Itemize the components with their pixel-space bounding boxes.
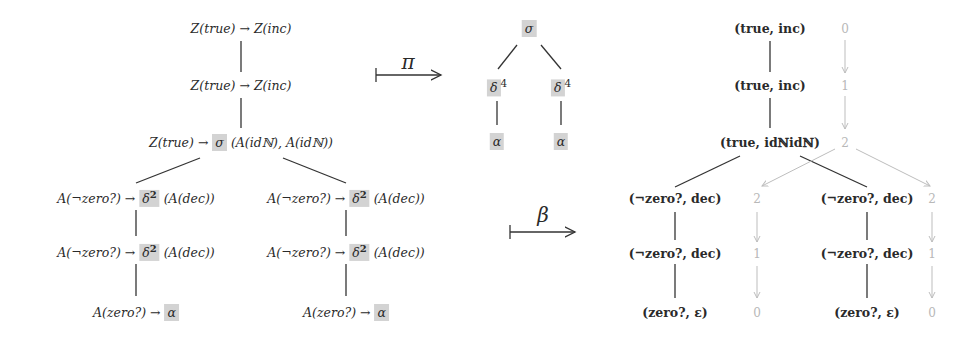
highlight-alpha: α bbox=[164, 304, 178, 321]
highlight-sigma: σ bbox=[212, 134, 227, 151]
arrow-symbol: → bbox=[125, 191, 135, 206]
mid-leaf-0: α bbox=[490, 134, 504, 150]
mid-leaf-1: α bbox=[554, 134, 568, 150]
arrow-symbol: → bbox=[198, 135, 208, 150]
delta-symbol: δ bbox=[490, 81, 498, 96]
right-node-4a: (¬zero?, dec) bbox=[629, 246, 722, 262]
right-node-3b: (¬zero?, dec) bbox=[821, 191, 914, 207]
mid-child-1: δ4 bbox=[551, 75, 571, 96]
arrow-symbol: → bbox=[125, 245, 135, 260]
exponent: 2 bbox=[150, 189, 157, 200]
counter-3a: 2 bbox=[753, 191, 761, 207]
diagram-edges bbox=[0, 0, 968, 342]
right-node-4b: (¬zero?, dec) bbox=[821, 246, 914, 262]
exponent: 2 bbox=[360, 189, 367, 200]
node-args: (A(dec)) bbox=[374, 191, 425, 206]
mid-child-0: δ4 bbox=[487, 75, 507, 96]
highlight-alpha: α bbox=[490, 133, 504, 150]
counter-3b: 2 bbox=[928, 191, 936, 207]
highlight-delta: δ bbox=[487, 80, 501, 97]
highlight-sigma: σ bbox=[522, 20, 537, 37]
left-node-3b: A(¬zero?) → δ2 (A(dec)) bbox=[267, 187, 424, 207]
exponent: 2 bbox=[150, 243, 157, 254]
node-lhs: A(¬zero?) bbox=[57, 245, 120, 260]
counter-4b: 1 bbox=[928, 246, 936, 262]
right-node-5a: (zero?, ε) bbox=[642, 305, 707, 321]
highlight-delta: δ2 bbox=[139, 244, 160, 261]
right-node-3a: (¬zero?, dec) bbox=[629, 191, 722, 207]
pi-map-label: π bbox=[401, 50, 414, 74]
right-node-2: (true, idℕidℕ) bbox=[720, 135, 820, 151]
counter-4a: 1 bbox=[753, 246, 761, 262]
left-node-4a: A(¬zero?) → δ2 (A(dec)) bbox=[57, 241, 214, 261]
highlight-delta: δ2 bbox=[349, 244, 370, 261]
node-lhs: A(¬zero?) bbox=[267, 245, 330, 260]
node-rhs: Z(inc) bbox=[254, 78, 292, 93]
left-node-3a: A(¬zero?) → δ2 (A(dec)) bbox=[57, 187, 214, 207]
left-node-1: Z(true) → Z(inc) bbox=[191, 78, 292, 94]
left-node-5b: A(zero?) → α bbox=[303, 305, 389, 321]
arrow-symbol: → bbox=[150, 305, 160, 320]
highlight-alpha: α bbox=[374, 304, 388, 321]
arrow-symbol: → bbox=[335, 191, 345, 206]
arrow-symbol: → bbox=[239, 21, 249, 36]
arrow-symbol: → bbox=[335, 245, 345, 260]
exponent: 2 bbox=[360, 243, 367, 254]
node-args: (A(dec)) bbox=[374, 245, 425, 260]
node-lhs: A(¬zero?) bbox=[267, 191, 330, 206]
counter-5b: 0 bbox=[928, 305, 936, 321]
highlight-delta: δ2 bbox=[349, 190, 370, 207]
node-args: (A(dec)) bbox=[164, 191, 215, 206]
mid-root: σ bbox=[522, 21, 537, 37]
highlight-delta: δ bbox=[551, 80, 565, 97]
right-node-5b: (zero?, ε) bbox=[834, 305, 899, 321]
counter-1: 1 bbox=[841, 78, 849, 94]
left-node-0: Z(true) → Z(inc) bbox=[191, 21, 292, 37]
node-lhs: A(zero?) bbox=[93, 305, 146, 320]
counter-0: 0 bbox=[841, 21, 849, 37]
right-node-1: (true, inc) bbox=[734, 78, 805, 94]
right-node-0: (true, inc) bbox=[734, 21, 805, 37]
arrow-symbol: → bbox=[360, 305, 370, 320]
node-lhs: A(zero?) bbox=[303, 305, 356, 320]
counter-5a: 0 bbox=[753, 305, 761, 321]
beta-map-label: β bbox=[537, 203, 549, 227]
exponent: 4 bbox=[564, 77, 571, 89]
node-lhs: Z(true) bbox=[149, 135, 194, 150]
node-lhs: Z(true) bbox=[191, 21, 236, 36]
exponent: 4 bbox=[500, 77, 507, 89]
node-rhs: Z(inc) bbox=[254, 21, 292, 36]
node-args: (A(idℕ), A(idℕ)) bbox=[231, 135, 333, 150]
highlight-delta: δ2 bbox=[139, 190, 160, 207]
arrow-symbol: → bbox=[239, 78, 249, 93]
highlight-alpha: α bbox=[554, 133, 568, 150]
delta-symbol: δ bbox=[554, 81, 562, 96]
node-args: (A(dec)) bbox=[164, 245, 215, 260]
left-node-5a: A(zero?) → α bbox=[93, 305, 179, 321]
node-lhs: Z(true) bbox=[191, 78, 236, 93]
node-lhs: A(¬zero?) bbox=[57, 191, 120, 206]
counter-2: 2 bbox=[841, 135, 849, 151]
left-node-4b: A(¬zero?) → δ2 (A(dec)) bbox=[267, 241, 424, 261]
left-node-2: Z(true) → σ (A(idℕ), A(idℕ)) bbox=[149, 135, 333, 151]
